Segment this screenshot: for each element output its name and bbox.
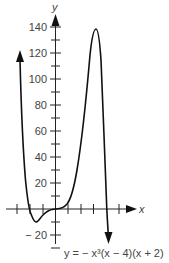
- curve: [16, 29, 113, 244]
- y-axis-arrow-icon: [52, 14, 60, 26]
- y-tick-80: 80: [35, 99, 47, 111]
- x-axis-arrow-icon: [126, 205, 137, 213]
- y-tick-120: 120: [29, 47, 47, 59]
- y-tick-20: 20: [35, 177, 47, 189]
- y-tick-100: 100: [29, 73, 47, 85]
- y-tick-140: 140: [29, 21, 47, 33]
- right-branch-arrow-icon: [105, 232, 113, 244]
- x-axis-label: x: [138, 203, 145, 215]
- y-tick-neg20: − 20: [25, 229, 47, 241]
- polynomial-graph: x y 140 120 100 80 60 4: [0, 0, 169, 263]
- left-branch-arrow-icon: [16, 50, 24, 62]
- y-tick-60: 60: [35, 125, 47, 137]
- y-tick-40: 40: [35, 151, 47, 163]
- equation-label: y = − x³(x − 4)(x + 2): [64, 247, 164, 259]
- y-axis-label: y: [51, 1, 59, 13]
- x-axis: x: [6, 203, 145, 215]
